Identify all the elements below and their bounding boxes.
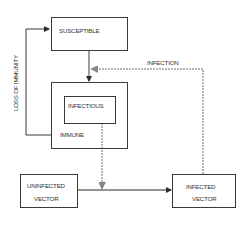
immune-label: IMMUNE bbox=[60, 132, 84, 138]
infection-label: INFECTION bbox=[147, 60, 179, 66]
infectious-label: INFECTIOUS bbox=[68, 103, 103, 109]
susceptible-label: SUSCEPTIBLE bbox=[59, 28, 99, 34]
infected-vector-label-line2: VECTOR bbox=[192, 196, 216, 202]
uninfected-vector-label-line2: VECTOR bbox=[34, 196, 58, 202]
loss-of-immunity-label: LOSS OF IMMUNITY bbox=[13, 53, 19, 113]
infectious-box: INFECTIOUS bbox=[64, 96, 116, 124]
susceptible-box: SUSCEPTIBLE bbox=[51, 17, 128, 51]
infected-vector-label-line1: INFECTED bbox=[186, 184, 215, 190]
uninfected-vector-label-line1: UNINFECTED bbox=[27, 183, 65, 189]
uninfected-vector-box: UNINFECTED VECTOR bbox=[20, 174, 78, 208]
loss-of-immunity-label-wrap: LOSS OF IMMUNITY bbox=[0, 80, 46, 88]
infected-vector-box: INFECTED VECTOR bbox=[172, 174, 236, 208]
